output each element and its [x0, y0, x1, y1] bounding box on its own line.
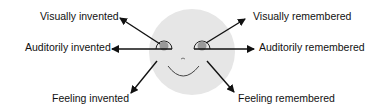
label-visually-invented: Visually invented: [40, 10, 119, 22]
label-feeling-invented: Feeling invented: [52, 92, 129, 104]
label-feeling-remembered: Feeling remembered: [238, 92, 335, 104]
arrow-feeling-invented: [131, 61, 157, 93]
label-auditorily-remembered: Auditorily remembered: [259, 41, 365, 53]
label-auditorily-invented: Auditorily invented: [25, 41, 111, 53]
eye-accessing-cues-diagram: Visually invented Auditorily invented Fe…: [0, 0, 385, 110]
arrow-visually-invented: [120, 18, 160, 44]
face-circle: [149, 9, 235, 95]
label-visually-remembered: Visually remembered: [253, 10, 351, 22]
